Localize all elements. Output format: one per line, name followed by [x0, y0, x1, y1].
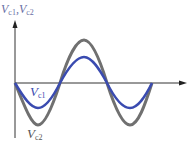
vc1-label: Vc1: [30, 85, 46, 100]
y-axis-arrow-icon: [13, 20, 18, 28]
waveform-diagram: Vc1,Vc2 Vc1 Vc2: [0, 0, 188, 150]
vc2-label: Vc2: [27, 127, 43, 142]
x-axis-arrow-icon: [179, 81, 187, 86]
axis-label: Vc1,Vc2: [1, 3, 34, 17]
